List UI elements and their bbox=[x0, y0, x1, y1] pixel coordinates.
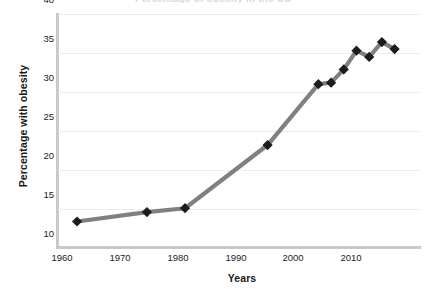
x-tick-1980: 1980 bbox=[156, 252, 200, 263]
y-tick-30: 30 bbox=[20, 73, 54, 83]
y-axis-ticks: 40 35 30 25 20 15 10 bbox=[14, 0, 54, 234]
x-tick-2010: 2010 bbox=[329, 252, 373, 263]
data-point-marker bbox=[142, 207, 152, 217]
y-tick-25: 25 bbox=[20, 112, 54, 122]
x-tick-1960: 1960 bbox=[40, 252, 84, 263]
x-tick-2000: 2000 bbox=[271, 252, 315, 263]
y-tick-40: 40 bbox=[20, 0, 54, 5]
y-tick-20: 20 bbox=[20, 151, 54, 161]
data-series-obesity bbox=[58, 14, 420, 248]
plot-area bbox=[58, 14, 420, 248]
x-axis-title: Years bbox=[58, 272, 426, 284]
line-chart: Percentage of obesity in the US Percenta… bbox=[0, 0, 426, 289]
x-tick-1970: 1970 bbox=[98, 252, 142, 263]
x-tick-1990: 1990 bbox=[214, 252, 258, 263]
data-point-marker bbox=[72, 216, 82, 226]
y-tick-15: 15 bbox=[20, 190, 54, 200]
y-tick-35: 35 bbox=[20, 34, 54, 44]
y-tick-10: 10 bbox=[20, 229, 54, 239]
chart-title: Percentage of obesity in the US bbox=[0, 0, 426, 3]
